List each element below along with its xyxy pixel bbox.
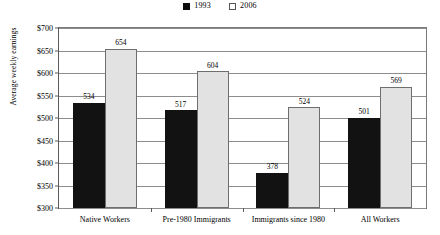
bar-value-label: 654 xyxy=(115,39,126,47)
bar-value-label: 524 xyxy=(299,98,310,106)
legend-label-2006: 2006 xyxy=(240,2,257,10)
bar-1993-3[interactable] xyxy=(256,173,288,208)
category-label-2: Pre-1980 Immigrants xyxy=(163,215,231,224)
y-tick-label: $350 xyxy=(37,181,53,190)
category-label-3: Immigrants since 1980 xyxy=(252,215,325,224)
y-tick-label: $400 xyxy=(37,159,53,168)
bar-value-label: 517 xyxy=(175,101,186,109)
x-tick-mark xyxy=(334,208,335,212)
y-tick-label: $700 xyxy=(37,24,53,33)
bars-layer: 534654517604378524501569 xyxy=(59,28,426,208)
bar-value-label: 501 xyxy=(359,108,370,116)
bar-group: 378524 xyxy=(243,28,335,208)
bar-slot: 534 xyxy=(73,28,105,208)
bar-slot: 501 xyxy=(348,28,380,208)
bar-2006-1[interactable] xyxy=(105,49,137,208)
bar-slot: 517 xyxy=(165,28,197,208)
y-tick-label: $550 xyxy=(37,91,53,100)
bar-slot: 654 xyxy=(105,28,137,208)
bar-group: 534654 xyxy=(59,28,151,208)
category-label-4: All Workers xyxy=(361,215,400,224)
plot-area: $700$650$600$550$500$450$400$350$300 534… xyxy=(58,27,427,209)
y-tick-label: $450 xyxy=(37,136,53,145)
y-tick-label: $300 xyxy=(37,204,53,213)
bar-2006-3[interactable] xyxy=(288,107,320,208)
bar-slot: 569 xyxy=(380,28,412,208)
chart-legend: 1993 2006 xyxy=(0,2,440,10)
y-tick-label: $600 xyxy=(37,69,53,78)
bar-slot: 604 xyxy=(197,28,229,208)
category-label-1: Native Workers xyxy=(80,215,130,224)
bar-value-label: 534 xyxy=(83,93,94,101)
bar-2006-2[interactable] xyxy=(197,71,229,208)
bar-1993-2[interactable] xyxy=(165,110,197,208)
legend-swatch-1993 xyxy=(183,3,190,10)
bar-value-label: 604 xyxy=(207,62,218,70)
bar-value-label: 569 xyxy=(391,77,402,85)
legend-label-1993: 1993 xyxy=(194,2,211,10)
y-tick-label: $500 xyxy=(37,114,53,123)
x-tick-mark xyxy=(151,208,152,212)
legend-swatch-2006 xyxy=(229,3,236,10)
legend-entry-1993: 1993 xyxy=(183,2,211,10)
bar-1993-1[interactable] xyxy=(73,103,105,208)
bar-group: 501569 xyxy=(334,28,426,208)
bar-2006-4[interactable] xyxy=(380,87,412,208)
bar-group: 517604 xyxy=(151,28,243,208)
y-axis-title: Average weekly earnings xyxy=(9,7,18,127)
bar-value-label: 378 xyxy=(267,163,278,171)
legend-entry-2006: 2006 xyxy=(229,2,257,10)
bar-chart: 1993 2006 Average weekly earnings $700$6… xyxy=(0,0,440,235)
bar-1993-4[interactable] xyxy=(348,118,380,208)
bar-slot: 378 xyxy=(256,28,288,208)
bar-slot: 524 xyxy=(288,28,320,208)
x-tick-mark xyxy=(243,208,244,212)
y-tick-label: $650 xyxy=(37,46,53,55)
